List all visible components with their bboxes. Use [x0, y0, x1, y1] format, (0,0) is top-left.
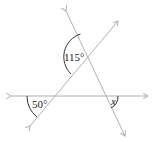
angle-label-115: 115°	[64, 51, 85, 63]
angle-diagram: 115° 50° x	[0, 0, 155, 142]
angle-label-50: 50°	[32, 98, 47, 110]
steep-line	[66, 11, 125, 136]
angle-label-x: x	[110, 95, 116, 107]
